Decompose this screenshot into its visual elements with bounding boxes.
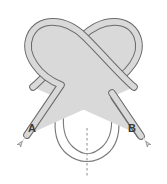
end-label-a: A [28, 123, 36, 134]
knot-loop-diagram: A B [0, 0, 167, 184]
knot-diagram-canvas [0, 0, 167, 184]
end-label-b: B [128, 123, 136, 134]
